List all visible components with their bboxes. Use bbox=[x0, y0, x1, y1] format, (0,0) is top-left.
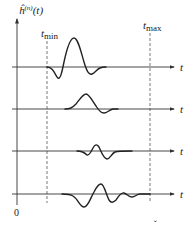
waveform-3 bbox=[77, 145, 132, 159]
time-axis-label-2: t bbox=[180, 103, 184, 115]
time-axis-label-1: t bbox=[180, 61, 184, 73]
waveform-1 bbox=[47, 38, 106, 78]
t-max-label: tmax bbox=[143, 19, 162, 33]
y-axis-label: ĥ(n)(t) bbox=[19, 4, 43, 17]
row-2: t bbox=[12, 94, 184, 115]
waveform-2 bbox=[65, 94, 118, 113]
time-axis-label-4: t bbox=[180, 188, 184, 200]
row-4: t bbox=[12, 184, 184, 207]
t-min-label: tmin bbox=[41, 27, 59, 41]
row-1: t bbox=[12, 38, 184, 78]
wavelet-diagram: ĥ(n)(t) tmin tmax t t t t 0 ˇ bbox=[0, 0, 195, 227]
waveform-4 bbox=[62, 184, 150, 207]
footer-mark: ˇ bbox=[154, 220, 157, 227]
row-3: t bbox=[12, 145, 184, 159]
time-axis-label-3: t bbox=[180, 145, 184, 157]
origin-label: 0 bbox=[14, 207, 19, 218]
